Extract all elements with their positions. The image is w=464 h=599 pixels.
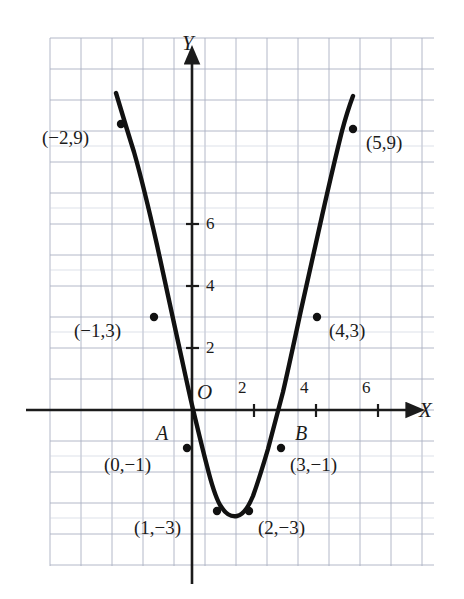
- point-marker: [150, 313, 158, 321]
- point-marker: [277, 444, 285, 452]
- point-marker: [245, 507, 253, 515]
- y-tick-label-6: 6: [206, 215, 215, 232]
- x-tick-label-2: 2: [238, 379, 247, 396]
- point-marker: [349, 125, 357, 133]
- origin-label: O: [197, 382, 212, 403]
- point-label-3-neg1: (3,−1): [290, 455, 337, 474]
- parabola-curve: [116, 93, 353, 516]
- point-label-5-9: (5,9): [366, 133, 402, 152]
- y-tick-label-2: 2: [206, 339, 215, 356]
- grid-lines: [50, 38, 434, 566]
- graph-figure: Y X O 2 4 6 2 4 6 (−2,9) (−1,3) (0,−1) (…: [0, 0, 464, 599]
- point-name-b: B: [295, 423, 307, 443]
- y-tick-label-4: 4: [206, 277, 215, 294]
- y-axis-label: Y: [182, 33, 194, 54]
- point-marker: [213, 507, 221, 515]
- x-tick-label-6: 6: [362, 379, 371, 396]
- point-label-0-neg1: (0,−1): [104, 455, 151, 474]
- point-label-1-neg3: (1,−3): [134, 518, 181, 537]
- coordinate-plane: [0, 0, 464, 599]
- point-label-4-3: (4,3): [329, 321, 365, 340]
- point-marker: [183, 444, 191, 452]
- point-label-2-neg3: (2,−3): [258, 518, 305, 537]
- x-axis-label: X: [419, 400, 432, 421]
- point-marker: [117, 120, 125, 128]
- point-name-a: A: [156, 423, 168, 443]
- point-marker: [313, 313, 321, 321]
- point-label-neg2-9: (−2,9): [42, 128, 89, 147]
- x-tick-label-4: 4: [300, 379, 309, 396]
- point-label-neg1-3: (−1,3): [74, 321, 121, 340]
